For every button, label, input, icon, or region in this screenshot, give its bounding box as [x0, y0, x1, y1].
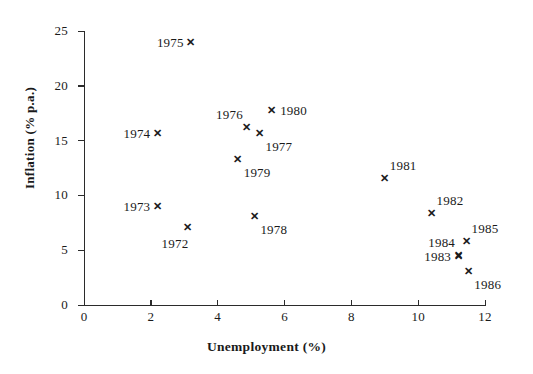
- data-point-marker-1974: ✕: [153, 127, 162, 138]
- x-tick-label-4: 4: [198, 310, 238, 323]
- data-point-label-1974: 1974: [124, 127, 151, 140]
- y-tick-label-5: 5: [10, 243, 68, 256]
- x-tick-label-6: 6: [265, 310, 305, 323]
- data-point-marker-1982: ✕: [427, 207, 436, 218]
- y-axis-line: [84, 31, 85, 306]
- data-point-label-1977: 1977: [265, 140, 292, 153]
- data-point-label-1973: 1973: [124, 200, 151, 213]
- y-tick-label-15: 15: [10, 134, 68, 147]
- x-tick-label-2: 2: [131, 310, 171, 323]
- data-point-marker-1986: ✕: [464, 266, 473, 277]
- data-point-label-1976: 1976: [216, 108, 243, 121]
- x-axis-title: Unemployment (%): [0, 339, 533, 355]
- y-tick-15: [78, 140, 85, 141]
- y-tick-25: [78, 31, 85, 32]
- data-point-marker-1972: ✕: [183, 222, 192, 233]
- data-point-label-1975: 1975: [157, 36, 184, 49]
- y-tick-20: [78, 85, 85, 86]
- y-tick-label-20: 20: [10, 79, 68, 92]
- data-point-marker-1984: ✕: [454, 249, 463, 260]
- x-tick-label-0: 0: [64, 310, 104, 323]
- data-point-marker-1985: ✕: [462, 236, 471, 247]
- x-tick-label-10: 10: [398, 310, 438, 323]
- data-point-marker-1981: ✕: [380, 172, 389, 183]
- data-point-label-1983: 1983: [424, 250, 451, 263]
- data-point-label-1984: 1984: [428, 236, 455, 249]
- x-tick-label-12: 12: [465, 310, 505, 323]
- x-tick-12: [485, 300, 486, 306]
- data-point-marker-1979: ✕: [233, 154, 242, 165]
- data-point-marker-1978: ✕: [250, 211, 259, 222]
- data-point-marker-1975: ✕: [186, 36, 195, 47]
- x-tick-8: [351, 300, 352, 306]
- data-point-marker-1977: ✕: [255, 127, 264, 138]
- x-tick-2: [150, 300, 151, 306]
- data-point-label-1982: 1982: [437, 194, 464, 207]
- scatter-plot-figure: 0510152025 024681012 Inflation (% p.a.) …: [0, 0, 533, 374]
- y-tick-10: [78, 195, 85, 196]
- x-tick-10: [418, 300, 419, 306]
- x-tick-6: [284, 300, 285, 306]
- data-point-marker-1976: ✕: [242, 122, 251, 133]
- x-tick-label-8: 8: [331, 310, 371, 323]
- y-tick-label-10: 10: [10, 188, 68, 201]
- data-point-label-1985: 1985: [472, 222, 499, 235]
- data-point-label-1980: 1980: [280, 104, 307, 117]
- x-tick-4: [217, 300, 218, 306]
- x-tick-0: [84, 300, 85, 306]
- y-tick-label-25: 25: [10, 24, 68, 37]
- y-tick-label-0: 0: [10, 298, 68, 311]
- y-tick-5: [78, 250, 85, 251]
- data-point-label-1981: 1981: [390, 159, 417, 172]
- data-point-marker-1980: ✕: [267, 104, 276, 115]
- y-axis-title: Inflation (% p.a.): [22, 38, 38, 238]
- data-point-label-1978: 1978: [260, 223, 287, 236]
- data-point-label-1979: 1979: [244, 166, 271, 179]
- data-point-label-1972: 1972: [162, 237, 189, 250]
- data-point-label-1986: 1986: [474, 278, 501, 291]
- data-point-marker-1973: ✕: [153, 201, 162, 212]
